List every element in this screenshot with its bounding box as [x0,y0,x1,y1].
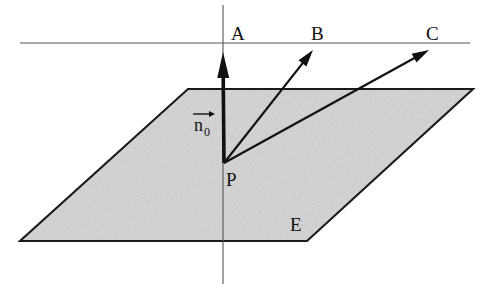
geometry-diagram: A B C P E n 0 [0,0,487,290]
normal-vector-label-n: n [194,115,203,135]
label-plane-e: E [290,214,302,235]
normal-vector-label-subscript: 0 [204,125,210,139]
label-a: A [231,23,245,44]
normal-vector-shaft [223,66,224,163]
plane-e-surface [20,89,473,241]
label-b: B [311,23,324,44]
normal-vector-arrowhead [217,52,229,78]
ray-c-arrowhead [412,50,429,63]
figure-canvas: A B C P E n 0 [0,0,487,290]
label-c: C [426,23,439,44]
label-point-p: P [226,169,237,190]
